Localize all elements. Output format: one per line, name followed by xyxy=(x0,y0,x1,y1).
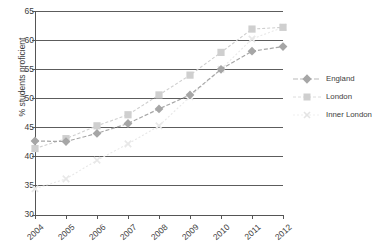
legend-label-england: England xyxy=(326,74,355,83)
legend-item-inner-london[interactable]: Inner London xyxy=(292,106,378,123)
line-chart: % students proficient 65 60 55 50 45 40 … xyxy=(0,0,378,249)
legend-item-london[interactable]: London xyxy=(292,88,378,105)
diamond-marker-icon xyxy=(292,73,322,85)
legend-label-london: London xyxy=(326,92,352,101)
x-axis-ticks xyxy=(35,215,283,219)
legend-label-inner-london: Inner London xyxy=(326,110,372,119)
series-layer xyxy=(31,24,288,192)
axis-lines xyxy=(32,11,283,215)
legend-item-england[interactable]: England xyxy=(292,70,378,87)
legend: England London Inner Lo xyxy=(292,70,378,124)
cross-marker-icon xyxy=(292,109,322,121)
plot-area xyxy=(0,0,378,249)
square-marker-icon xyxy=(292,91,322,103)
